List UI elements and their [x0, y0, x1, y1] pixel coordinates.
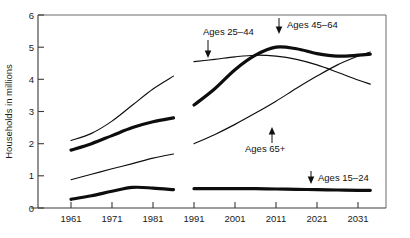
chart-container: 0 1 2 3 4 5 6 1961 1971 1981 1991 2001 2 — [0, 0, 410, 238]
annotation-ages-25-44-label: Ages 25–44 — [203, 26, 254, 37]
series-segment-projected — [194, 52, 370, 144]
x-tick-label-2021: 2021 — [306, 213, 327, 224]
series-ages-25-44 — [71, 55, 370, 140]
series-ages-65 — [71, 52, 370, 180]
arrow-down-icon-head — [276, 27, 283, 35]
series-segment-historical — [71, 187, 174, 199]
arrow-down-icon-head — [205, 51, 212, 59]
series-segment-projected — [194, 55, 370, 84]
y-tick-label-3: 3 — [29, 106, 34, 117]
y-tick-label-4: 4 — [29, 74, 34, 85]
line-chart: 0 1 2 3 4 5 6 1961 1971 1981 1991 2001 2 — [0, 0, 410, 238]
annotation-ages-15-24-label: Ages 15–24 — [318, 172, 369, 183]
annotation-ages-15-24: Ages 15–24 — [308, 171, 369, 184]
x-axis-tick-labels: 1961 1971 1981 1991 2001 2011 2021 2031 — [60, 213, 368, 224]
series-segment-projected — [194, 189, 370, 191]
series-segment-projected — [194, 47, 370, 105]
x-tick-label-2001: 2001 — [224, 213, 245, 224]
y-tick-label-6: 6 — [29, 10, 34, 21]
annotation-ages-45-64-label: Ages 45–64 — [287, 19, 338, 30]
annotation-ages-65-plus-label: Ages 65+ — [245, 143, 286, 154]
arrow-down-icon-head — [308, 177, 315, 185]
x-tick-label-2011: 2011 — [266, 213, 286, 224]
series-segment-historical — [71, 118, 174, 150]
arrow-up-icon-head — [269, 127, 276, 135]
y-tick-label-1: 1 — [29, 170, 34, 181]
y-tick-label-0: 0 — [29, 203, 34, 214]
x-tick-label-2031: 2031 — [347, 213, 368, 224]
x-axis-ticks — [71, 202, 358, 208]
annotation-ages-65-plus: Ages 65+ — [245, 127, 286, 154]
series-ages-15-24 — [71, 187, 370, 199]
y-axis-tick-labels: 0 1 2 3 4 5 6 — [29, 10, 34, 214]
x-tick-label-1961: 1961 — [60, 213, 81, 224]
x-tick-label-1981: 1981 — [142, 213, 163, 224]
y-axis-ticks — [38, 15, 44, 208]
y-tick-label-2: 2 — [29, 138, 34, 149]
x-tick-label-1991: 1991 — [183, 213, 204, 224]
y-tick-label-5: 5 — [29, 42, 34, 53]
series-segment-historical — [71, 154, 174, 180]
annotation-ages-45-64: Ages 45–64 — [276, 18, 338, 34]
series-ages-45-64 — [71, 47, 370, 150]
x-tick-label-1971: 1971 — [101, 213, 122, 224]
y-axis-title: Households in millions — [3, 64, 14, 159]
annotation-ages-25-44: Ages 25–44 — [203, 26, 254, 58]
